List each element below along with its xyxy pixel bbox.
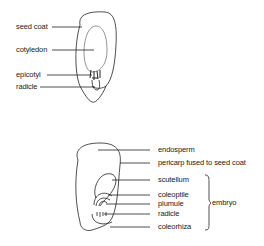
label-pericarp: pericarp fused to seed coat	[158, 158, 246, 167]
label-coleoptile: coleoptile	[158, 190, 189, 199]
dicot-seed-coat-outline	[76, 12, 116, 102]
label-seed-coat: seed coat	[16, 22, 48, 31]
label-epicotyl: epicotyl	[16, 70, 41, 79]
label-coleorhiza: coleorhiza	[158, 222, 191, 231]
embryo-bracket	[205, 175, 211, 230]
seed-diagram	[0, 0, 264, 246]
label-radicle-dicot: radicle	[16, 82, 37, 91]
label-scutellum: scutellum	[158, 175, 189, 184]
monocot-radicle	[97, 212, 106, 217]
label-radicle-monocot: radicle	[158, 209, 179, 218]
label-endosperm: endosperm	[158, 145, 195, 154]
label-cotyledon: cotyledon	[16, 45, 47, 54]
monocot-pericarp-outline	[76, 143, 121, 231]
label-embryo: embryo	[212, 198, 236, 207]
label-plumule: plumule	[158, 199, 184, 208]
dicot-cotyledon-outline	[84, 26, 107, 72]
